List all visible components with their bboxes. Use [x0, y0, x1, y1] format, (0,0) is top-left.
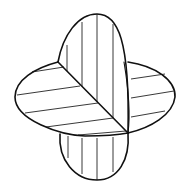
- vertical-plane-bottom: [60, 133, 128, 180]
- intersecting-planes-diagram: [0, 0, 187, 193]
- horizontal-plane-right: [128, 62, 175, 133]
- diagram-canvas: [0, 0, 187, 193]
